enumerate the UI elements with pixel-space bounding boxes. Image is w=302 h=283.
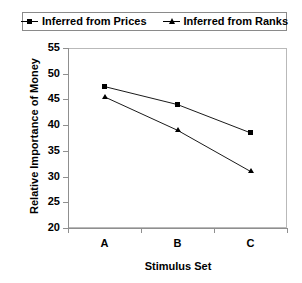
series-line <box>105 97 251 172</box>
series-line <box>105 87 251 133</box>
line-chart: Inferred from Prices Inferred from Ranks… <box>0 0 302 283</box>
series-lines <box>0 0 302 283</box>
